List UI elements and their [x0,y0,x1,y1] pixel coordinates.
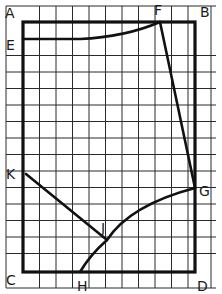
line-k-j [26,174,107,240]
label-f: F [154,2,162,18]
label-k: K [6,166,16,182]
label-c: C [6,272,16,288]
pattern-diagram: A B E F G K J C H D [0,0,222,294]
grid-lines [6,6,216,288]
label-a: A [5,5,15,21]
label-j: J [100,220,105,236]
curve-e-f [23,22,160,39]
label-e: E [6,37,15,53]
label-h: H [77,278,88,294]
curve-g-j-h [80,188,195,272]
label-g: G [199,183,210,199]
label-d: D [197,278,208,294]
point-labels: A B E F G K J C H D [5,2,210,294]
label-b: B [200,4,210,20]
